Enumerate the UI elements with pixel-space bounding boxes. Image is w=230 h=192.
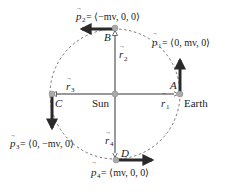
svg-text:→: → [161,90,167,96]
sun-label: Sun [92,97,110,109]
r3-label: → r 3 [66,75,75,94]
dot-d [113,157,119,163]
svg-text:→: → [91,159,97,165]
sun-dot [112,91,118,97]
svg-text:4: 4 [110,140,114,148]
svg-text:1: 1 [166,103,170,111]
svg-text:= ⟨−mv, 0, 0⟩: = ⟨−mv, 0, 0⟩ [86,11,140,22]
label-a: A [169,79,177,91]
r1-label: → r 1 [161,90,170,111]
svg-text:p: p [75,10,82,22]
svg-text:p: p [151,36,158,48]
svg-text:3: 3 [71,86,75,94]
label-d: D [120,147,129,159]
orbit-diagram: A B C D Sun Earth → r 1 → r 2 → r 3 → r … [0,0,230,192]
label-b: B [104,31,111,43]
p3-label: → p 3 = ⟨0, −mv, 0⟩ [9,132,74,151]
r4-label: → r 4 [105,129,114,148]
svg-text:= ⟨mv, 0, 0⟩: = ⟨mv, 0, 0⟩ [101,167,149,178]
earth-label: Earth [184,97,208,109]
svg-text:= ⟨0, mv, 0⟩: = ⟨0, mv, 0⟩ [162,37,210,48]
earth-dot-a [177,91,183,97]
p1-label: → p 1 = ⟨0, mv, 0⟩ [151,30,210,50]
svg-text:p: p [90,166,97,178]
svg-text:p: p [9,137,16,149]
dot-b [112,25,118,31]
p4-label: → p 4 = ⟨mv, 0, 0⟩ [90,159,149,180]
svg-text:= ⟨0, −mv, 0⟩: = ⟨0, −mv, 0⟩ [20,138,74,149]
p2-label: → p 2 = ⟨−mv, 0, 0⟩ [75,5,140,24]
label-c: C [55,97,63,109]
r2-label: → r 2 [119,43,128,63]
svg-text:2: 2 [124,55,128,63]
